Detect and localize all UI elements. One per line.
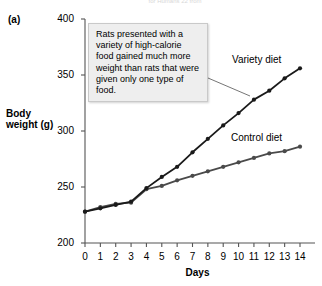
x-tick-6: 6 (170, 252, 184, 262)
data-point (221, 165, 225, 169)
y-axis-ticks (81, 19, 85, 243)
data-point (144, 186, 148, 190)
data-point (83, 210, 87, 214)
x-tick-3: 3 (124, 252, 138, 262)
data-point (190, 174, 194, 178)
data-point (283, 76, 287, 80)
data-point (298, 145, 302, 149)
x-tick-13: 13 (278, 252, 292, 262)
data-point (206, 169, 210, 173)
data-point (160, 184, 164, 188)
data-point (252, 156, 256, 160)
data-point (175, 165, 179, 169)
x-tick-5: 5 (155, 252, 169, 262)
x-tick-9: 9 (216, 252, 230, 262)
x-tick-0: 0 (78, 252, 92, 262)
data-point (98, 206, 102, 210)
x-axis-ticks (85, 243, 300, 247)
data-point (190, 150, 194, 154)
x-tick-4: 4 (139, 252, 153, 262)
series-label-control: Control diet (231, 133, 282, 143)
callout-textbox: Rats presented with a variety of high-ca… (88, 23, 208, 102)
x-tick-8: 8 (201, 252, 215, 262)
data-point (206, 137, 210, 141)
figure-panel-a: for Humans 22 from (a) Body weight (g) D… (0, 0, 322, 286)
data-point (129, 199, 133, 203)
data-point (160, 175, 164, 179)
x-tick-2: 2 (109, 252, 123, 262)
data-point (236, 160, 240, 164)
data-point (298, 66, 302, 70)
data-point (236, 111, 240, 115)
x-tick-1: 1 (93, 252, 107, 262)
x-tick-11: 11 (247, 252, 261, 262)
data-point (114, 203, 118, 207)
data-point (175, 178, 179, 182)
callout-leader-line (208, 78, 250, 96)
data-point (283, 149, 287, 153)
x-tick-12: 12 (262, 252, 276, 262)
data-point (267, 89, 271, 93)
data-point (267, 151, 271, 155)
x-tick-14: 14 (293, 252, 307, 262)
x-tick-7: 7 (186, 252, 200, 262)
series-label-variety: Variety diet (232, 55, 281, 65)
data-point (221, 123, 225, 127)
x-tick-10: 10 (232, 252, 246, 262)
data-point (252, 98, 256, 102)
